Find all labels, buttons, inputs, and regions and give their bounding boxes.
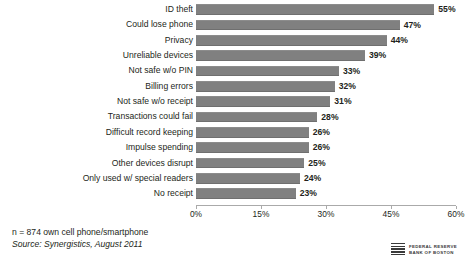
bar-fill <box>196 188 296 199</box>
bar <box>196 188 296 199</box>
bar-row: Not safe w/o PIN33% <box>0 63 465 78</box>
category-label: Could lose phone <box>0 17 193 32</box>
bar-value-label: 55% <box>438 4 455 15</box>
bar-row: Difficult record keeping26% <box>0 125 465 140</box>
bar <box>196 50 365 61</box>
category-label: Impulse spending <box>0 140 193 155</box>
logo-stripes-icon <box>391 243 405 256</box>
bar-value-label: 39% <box>369 50 386 61</box>
x-tick-label: 30% <box>318 209 335 220</box>
category-label: Other devices disrupt <box>0 156 193 171</box>
logo-line-1: FEDERAL RESERVE <box>409 244 457 249</box>
bar <box>196 173 300 184</box>
x-tick-label: 60% <box>448 209 465 220</box>
bar-fill <box>196 35 387 46</box>
category-label: No receipt <box>0 186 193 201</box>
bar-fill <box>196 173 300 184</box>
category-label: Difficult record keeping <box>0 125 193 140</box>
bar-fill <box>196 158 304 169</box>
category-label: Privacy <box>0 33 193 48</box>
bar-value-label: 23% <box>300 188 317 199</box>
bar-fill <box>196 96 330 107</box>
bar-fill <box>196 81 335 92</box>
logo-text: FEDERAL RESERVE BANK OF BOSTON <box>409 244 457 255</box>
bar-value-label: 25% <box>308 158 325 169</box>
category-label: Transactions could fail <box>0 109 193 124</box>
bar <box>196 127 309 138</box>
bar <box>196 20 400 31</box>
logo-line-2: BANK OF BOSTON <box>409 250 457 255</box>
x-tick-label: 0% <box>190 209 202 220</box>
bar-row: No receipt23% <box>0 186 465 201</box>
bar-fill <box>196 4 434 15</box>
bar-value-label: 28% <box>321 112 338 123</box>
bar <box>196 4 434 15</box>
bar-row: Impulse spending26% <box>0 140 465 155</box>
category-label: ID theft <box>0 2 193 17</box>
bar-fill <box>196 112 317 123</box>
bar <box>196 81 335 92</box>
bar-row: Other devices disrupt25% <box>0 156 465 171</box>
bar-value-label: 31% <box>334 96 351 107</box>
bar-row: Only used w/ special readers24% <box>0 171 465 186</box>
bar-value-label: 32% <box>339 81 356 92</box>
bar-row: Transactions could fail28% <box>0 109 465 124</box>
bar <box>196 35 387 46</box>
bar-value-label: 33% <box>343 66 360 77</box>
bar-fill <box>196 20 400 31</box>
bar-fill <box>196 50 365 61</box>
footnotes: n = 874 own cell phone/smartphone Source… <box>12 227 148 250</box>
bar-value-label: 26% <box>313 142 330 153</box>
bar-row: Billing errors32% <box>0 79 465 94</box>
category-label: Billing errors <box>0 79 193 94</box>
bar-value-label: 44% <box>391 35 408 46</box>
bar-row: Unreliable devices39% <box>0 48 465 63</box>
x-tick-label: 45% <box>383 209 400 220</box>
bar-value-label: 47% <box>404 20 421 31</box>
bar-fill <box>196 142 309 153</box>
footnote-source: Source: Synergistics, August 2011 <box>12 239 148 251</box>
bar-row: Privacy44% <box>0 33 465 48</box>
bar <box>196 158 304 169</box>
bar <box>196 112 317 123</box>
category-label: Not safe w/o PIN <box>0 63 193 78</box>
category-label: Unreliable devices <box>0 48 193 63</box>
bar-value-label: 26% <box>313 127 330 138</box>
bar-row: Not safe w/o receipt31% <box>0 94 465 109</box>
category-label: Only used w/ special readers <box>0 171 193 186</box>
bar-row: ID theft55% <box>0 2 465 17</box>
footnote-sample: n = 874 own cell phone/smartphone <box>12 227 148 239</box>
federal-reserve-bank-of-boston-logo: FEDERAL RESERVE BANK OF BOSTON <box>391 243 457 256</box>
bar-fill <box>196 66 339 77</box>
bar-row: Could lose phone47% <box>0 17 465 32</box>
category-label: Not safe w/o receipt <box>0 94 193 109</box>
bar <box>196 66 339 77</box>
bar <box>196 142 309 153</box>
bar-chart: ID theft55%Could lose phone47%Privacy44%… <box>0 0 465 212</box>
bar-value-label: 24% <box>304 173 321 184</box>
x-tick-label: 15% <box>253 209 270 220</box>
bar-fill <box>196 127 309 138</box>
bar <box>196 96 330 107</box>
